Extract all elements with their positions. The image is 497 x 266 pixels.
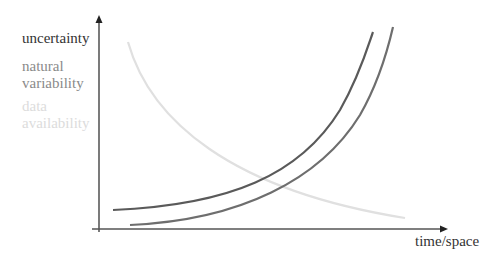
curve-natural-variability [130,27,393,225]
y-axis-arrow-icon [96,15,103,23]
legend-line: data [22,98,89,115]
curve-uncertainty [113,32,373,210]
legend-data-availability: data availability [22,98,89,132]
legend-natural-variability: natural variability [22,58,84,92]
diagram-canvas: uncertainty natural variability data ava… [0,0,497,266]
legend-line: availability [22,115,89,132]
curve-data-availability [128,42,405,218]
x-axis-label: time/space [415,233,479,250]
x-axis-arrow-icon [440,226,448,233]
y-axis-label: uncertainty [22,30,89,47]
legend-line: variability [22,75,84,92]
legend-line: natural [22,58,84,75]
